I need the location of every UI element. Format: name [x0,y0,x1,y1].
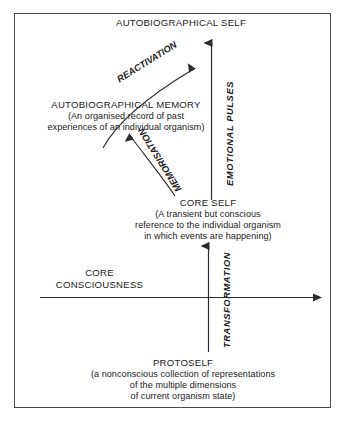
node-core-consciousness-heading-line-1: CORE [37,267,162,278]
node-core-consciousness-heading-line-2: CONSCIOUSNESS [37,279,162,290]
node-autobiographical-memory-heading: AUTOBIOGRAPHICAL MEMORY [28,99,224,110]
diagram-page: AUTOBIOGRAPHICAL SELF AUTOBIOGRAPHICAL M… [0,0,345,422]
node-core-self-detail-line-3: in which events are happening) [113,231,303,242]
node-protoself-detail-line-2: of the multiple dimensions [58,380,308,391]
node-core-self-heading: CORE SELF [113,197,303,208]
arrow-label-transformation: TRANSFORMATION [222,252,232,348]
node-protoself-detail-line-1: (a nonconscious collection of representa… [53,369,313,380]
node-autobiographical-memory-detail-line-2: experiences of an individual organism) [22,122,230,133]
node-core-self-detail-line-2: reference to the individual organism [108,220,308,231]
node-core-self-detail-line-1: (A transient but conscious [113,209,303,220]
node-autobiographical-memory-detail-line-1: (An organised record of past [28,111,224,122]
arrow-label-emotional-pulses: EMOTIONAL PULSES [225,81,235,186]
node-protoself-heading: PROTOSELF [58,357,308,368]
node-autobiographical-self-heading: AUTOBIOGRAPHICAL SELF [101,17,261,28]
node-protoself-detail-line-3: of current organism state) [58,391,308,402]
